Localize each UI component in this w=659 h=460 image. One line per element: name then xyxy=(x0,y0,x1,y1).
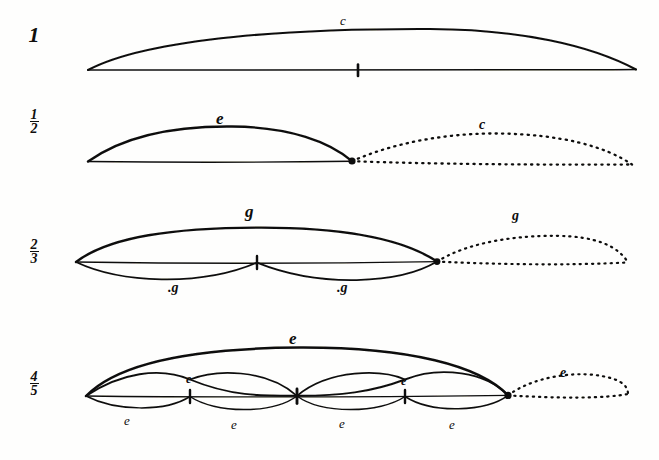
row-4-ratio-fraction: 4 5 xyxy=(30,370,39,398)
row-4-wave xyxy=(86,348,628,410)
row-3-dotted-baseline xyxy=(437,262,628,265)
row-3-numerator: 2 xyxy=(30,238,39,252)
row-4-arc-lower-2 xyxy=(190,396,297,410)
tone-label-row4-e-top: e xyxy=(289,330,297,347)
row-1-baseline xyxy=(88,70,636,71)
wave-diagram-svg xyxy=(0,0,659,460)
row-3-dotted-arc xyxy=(437,236,628,263)
tone-label-row4-e-low3: e xyxy=(339,417,345,430)
row-ratio-label-4: 4 5 xyxy=(14,370,54,398)
row-1-arc-upper xyxy=(88,29,636,70)
tone-label-row3-g-dotted: g xyxy=(512,209,519,223)
row-2-numerator: 1 xyxy=(30,108,39,122)
row-1-wave xyxy=(88,29,636,76)
row-4-arc-lower-4 xyxy=(405,395,508,408)
row-4-arc-lower-3 xyxy=(297,396,405,410)
row-4-arc-upper-left xyxy=(86,373,297,396)
row-4-dotted-baseline xyxy=(508,394,628,398)
row-ratio-label-2: 1 2 xyxy=(14,108,54,136)
row-4-numerator: 4 xyxy=(30,370,39,384)
row-3-ratio-fraction: 2 3 xyxy=(30,238,39,266)
row-4-arc-lower-1 xyxy=(86,396,190,408)
row-2-denominator: 2 xyxy=(30,122,39,135)
row-2-dotted-baseline xyxy=(352,161,632,164)
row-4-arc-upper-seg1 xyxy=(190,373,297,396)
row-2-baseline xyxy=(88,161,352,162)
tone-label-row3-g-left: .g xyxy=(168,281,179,295)
row-4-denominator: 5 xyxy=(30,384,39,397)
tone-label-row4-e-dotted: e xyxy=(560,366,566,380)
tone-label-row1-c: c xyxy=(340,14,346,27)
row-3-wave xyxy=(76,228,628,280)
engraved-figure-plate: 1 1 2 2 3 4 5 c e c g .g .g g e e e e e … xyxy=(0,0,659,460)
row-2-ratio-fraction: 1 2 xyxy=(30,108,39,136)
row-3-arc-lower-left xyxy=(76,262,257,279)
tone-label-row3-g-right: .g xyxy=(337,281,348,295)
row-2-dotted-arc xyxy=(352,133,632,164)
tone-label-row4-e-low4: e xyxy=(449,418,455,431)
tone-label-row4-e-low1: e xyxy=(124,414,130,427)
row-ratio-label-3: 2 3 xyxy=(14,238,54,266)
row-3-arc-lower-right xyxy=(257,262,437,280)
tone-label-row4-e-node3: e xyxy=(401,375,406,387)
tone-label-row4-e-low2: e xyxy=(231,418,237,431)
row-ratio-label-1: 1 xyxy=(14,24,54,46)
tone-label-row4-e-node1: e xyxy=(186,373,191,385)
row-3-denominator: 3 xyxy=(30,252,39,265)
row-1-ratio-value: 1 xyxy=(14,24,54,46)
row-2-wave xyxy=(88,126,632,164)
tone-label-row2-e: e xyxy=(216,110,224,127)
row-2-arc-upper xyxy=(88,126,352,161)
row-4-dotted-arc xyxy=(508,374,628,395)
tone-label-row3-g-top: g xyxy=(245,203,254,220)
tone-label-row2-c: c xyxy=(479,118,485,132)
